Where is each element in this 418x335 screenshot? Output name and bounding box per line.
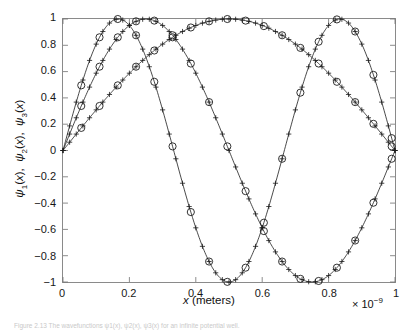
y-tick-label: −1 <box>22 277 56 288</box>
x-axis-exponent: × 10−9 <box>352 294 383 311</box>
plot-area <box>62 18 396 283</box>
figure-container: 10.80.60.40.20−0.2−0.4−0.6−0.8−1 00.20.4… <box>0 0 418 335</box>
x-exponent-value: −9 <box>374 296 383 305</box>
figure-caption: Figure 2.13 The wavefunctions ψ1(x), ψ2(… <box>14 322 414 330</box>
y-tick-label: 1 <box>22 12 56 23</box>
y-tick-label: −0.8 <box>22 251 56 262</box>
x-axis-unit: (meters) <box>192 294 235 306</box>
x-exponent-prefix: × 10 <box>352 298 374 310</box>
y-axis-label: ψ1(x), ψ2(x), ψ3(x) <box>13 49 30 249</box>
curves-svg <box>63 19 395 282</box>
